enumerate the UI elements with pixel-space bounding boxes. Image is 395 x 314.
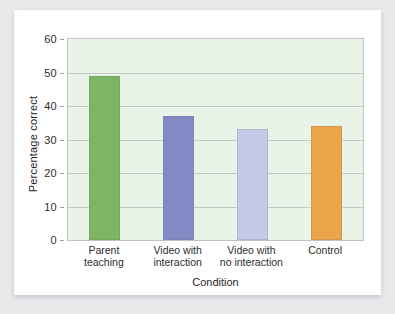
y-axis-title: Percentage correct bbox=[27, 79, 39, 209]
y-axis-tick-label: 0 bbox=[51, 234, 57, 246]
plot-area bbox=[67, 38, 364, 241]
y-axis-tick-mark bbox=[60, 240, 64, 241]
x-axis-tick-label: Video withno interaction bbox=[220, 244, 283, 268]
bar bbox=[237, 129, 268, 240]
figure-card: 0102030405060 Percentage correct Parentt… bbox=[14, 10, 381, 295]
y-axis-tick-labels: 0102030405060 bbox=[14, 38, 64, 241]
x-axis-tick-label-line: interaction bbox=[153, 256, 201, 268]
y-axis-tick-label: 50 bbox=[44, 67, 57, 79]
y-axis-tick-label: 40 bbox=[44, 100, 57, 112]
x-axis-title: Condition bbox=[67, 276, 364, 288]
y-axis-tick-label: 10 bbox=[44, 201, 57, 213]
x-axis-tick-label: Video withinteraction bbox=[153, 244, 201, 268]
y-axis-tick-mark bbox=[60, 39, 64, 40]
x-axis-tick-label: Control bbox=[308, 244, 342, 256]
x-axis-tick-labels: ParentteachingVideo withinteractionVideo… bbox=[67, 244, 364, 278]
bar bbox=[89, 76, 120, 240]
y-axis-tick-mark bbox=[60, 106, 64, 107]
y-axis-tick-mark bbox=[60, 73, 64, 74]
y-axis-tick-mark bbox=[60, 207, 64, 208]
x-axis-tick-label-line: teaching bbox=[84, 256, 124, 268]
y-axis-tick-mark bbox=[60, 140, 64, 141]
gridline bbox=[68, 73, 363, 74]
x-axis-tick-label-line: Video with bbox=[153, 244, 201, 256]
y-axis-tick-label: 60 bbox=[44, 33, 57, 45]
x-axis-tick-label-line: Video with bbox=[220, 244, 283, 256]
x-axis-tick-label-line: no interaction bbox=[220, 256, 283, 268]
bar bbox=[311, 126, 342, 240]
x-axis-tick-label-line: Parent bbox=[84, 244, 124, 256]
y-axis-tick-label: 20 bbox=[44, 167, 57, 179]
y-axis-tick-label: 30 bbox=[44, 134, 57, 146]
x-axis-tick-label-line: Control bbox=[308, 244, 342, 256]
y-axis-tick-mark bbox=[60, 173, 64, 174]
bar bbox=[163, 116, 194, 240]
x-axis-tick-label: Parentteaching bbox=[84, 244, 124, 268]
